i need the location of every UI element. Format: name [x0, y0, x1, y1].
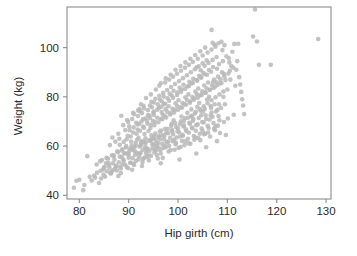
data-point: [138, 151, 143, 156]
data-point: [156, 134, 161, 139]
data-point: [157, 94, 162, 99]
data-point: [181, 82, 186, 87]
data-point: [128, 134, 133, 139]
data-point: [158, 117, 163, 122]
data-point: [158, 161, 163, 166]
data-point: [149, 92, 154, 97]
data-point: [116, 131, 121, 136]
data-point: [101, 172, 106, 177]
data-point: [204, 145, 209, 150]
data-point: [174, 135, 179, 140]
data-point: [127, 124, 132, 129]
data-point: [163, 145, 168, 150]
data-point: [216, 114, 221, 119]
data-point: [175, 129, 180, 134]
data-point: [134, 159, 139, 164]
data-point: [156, 106, 161, 111]
data-point: [193, 53, 198, 58]
y-tick-label: 80: [46, 91, 59, 103]
data-point: [144, 96, 149, 101]
data-point: [175, 93, 180, 98]
data-point: [202, 64, 207, 69]
data-point: [182, 143, 187, 148]
data-point: [117, 136, 122, 141]
data-point: [236, 41, 241, 46]
data-point: [228, 77, 233, 82]
data-point: [136, 135, 141, 140]
y-tick-label: 100: [40, 42, 59, 54]
data-point: [160, 156, 165, 161]
data-point: [164, 140, 169, 145]
data-point: [106, 161, 111, 166]
data-point: [125, 151, 130, 156]
data-point: [173, 67, 178, 72]
data-point: [128, 161, 133, 166]
data-point: [155, 144, 160, 149]
data-point: [85, 154, 90, 159]
data-point: [231, 66, 236, 71]
data-point: [213, 128, 218, 133]
data-point: [134, 120, 139, 125]
data-point: [140, 164, 145, 169]
data-point: [198, 49, 203, 54]
data-point: [231, 113, 236, 118]
data-point: [97, 181, 102, 186]
x-axis-ticks: 8090100110120130: [73, 199, 336, 217]
data-point: [136, 114, 141, 119]
data-point: [110, 135, 115, 140]
data-point: [198, 68, 203, 73]
x-axis-title: Hip girth (cm): [164, 227, 233, 239]
data-point: [183, 66, 188, 71]
data-point: [192, 96, 197, 101]
data-point: [159, 110, 164, 115]
data-point: [181, 76, 186, 81]
data-point: [177, 85, 182, 90]
data-point: [118, 143, 123, 148]
data-point: [172, 108, 177, 113]
data-point: [316, 37, 321, 42]
data-point: [152, 109, 157, 114]
data-point: [129, 139, 134, 144]
data-point: [121, 140, 126, 145]
data-point: [115, 168, 120, 173]
data-point: [175, 71, 180, 76]
data-point: [170, 139, 175, 144]
data-point: [165, 88, 170, 93]
data-point: [121, 123, 126, 128]
data-point: [120, 147, 125, 152]
data-point: [188, 142, 193, 147]
data-point: [198, 138, 203, 143]
data-point: [119, 155, 124, 160]
x-tick-label: 130: [316, 205, 335, 217]
data-point: [204, 117, 209, 122]
data-point: [186, 92, 191, 97]
data-point: [142, 126, 147, 131]
data-point: [196, 86, 201, 91]
data-point: [235, 59, 240, 64]
data-point: [133, 143, 138, 148]
data-point: [257, 63, 262, 68]
data-point: [183, 60, 188, 65]
data-point: [151, 142, 156, 147]
data-point: [223, 78, 228, 83]
data-point: [168, 72, 173, 77]
data-point: [226, 116, 231, 121]
data-point: [178, 105, 183, 110]
data-point: [149, 154, 154, 159]
data-point: [94, 162, 99, 167]
data-point: [178, 145, 183, 150]
data-point: [156, 156, 161, 161]
data-point: [183, 139, 188, 144]
data-point: [185, 73, 190, 78]
data-point: [221, 59, 226, 64]
data-point: [93, 175, 98, 180]
data-point: [189, 107, 194, 112]
data-point: [108, 171, 113, 176]
data-point: [131, 125, 136, 130]
data-point: [215, 66, 220, 71]
data-point: [218, 81, 223, 86]
data-point: [194, 65, 199, 70]
x-tick-label: 120: [267, 205, 286, 217]
data-point: [194, 78, 199, 83]
data-point: [118, 164, 123, 169]
